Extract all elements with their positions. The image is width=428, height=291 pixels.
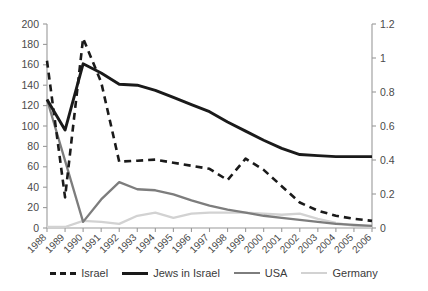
x-axis-tick-label: 1988	[25, 231, 49, 255]
left-axis-tick-label: 60	[27, 160, 39, 172]
series-line-israel	[47, 38, 372, 221]
chart-legend: IsraelJews in IsraelUSAGermany	[0, 262, 428, 284]
legend-label: Jews in Israel	[153, 267, 220, 279]
x-axis-tick-label: 2003	[296, 231, 320, 255]
right-axis-tick-label: 0.2	[380, 188, 395, 200]
x-axis-tick-label: 1994	[133, 231, 157, 255]
x-axis-tick-label: 1993	[115, 231, 139, 255]
x-axis-tick-label: 2004	[314, 231, 338, 255]
x-axis-tick-label: 1997	[187, 231, 211, 255]
left-axis-tick-label: 160	[21, 58, 39, 70]
left-axis-tick-label: 20	[27, 201, 39, 213]
legend-swatch-icon	[234, 272, 260, 274]
series-line-usa	[47, 99, 372, 225]
right-axis-tick-label: 1.2	[380, 18, 395, 30]
legend-label: Israel	[81, 267, 108, 279]
left-axis-tick-label: 140	[21, 79, 39, 91]
x-axis-tick-label: 1992	[97, 231, 121, 255]
legend-swatch-icon	[122, 272, 148, 275]
right-axis-tick-label: 0.6	[380, 120, 395, 132]
x-axis-tick-label: 2002	[278, 231, 302, 255]
left-axis-tick-label: 40	[27, 181, 39, 193]
right-axis-tick-label: 0.8	[380, 86, 395, 98]
legend-label: Germany	[332, 267, 377, 279]
x-axis-tick-label: 1989	[43, 231, 67, 255]
x-axis-tick-label: 1995	[151, 231, 175, 255]
series-line-germany	[47, 213, 372, 227]
right-axis-tick-label: 0	[380, 222, 386, 234]
x-axis-tick-label: 1996	[169, 231, 193, 255]
x-axis-tick-label: 2000	[242, 231, 266, 255]
x-axis-tick-label: 1998	[205, 231, 229, 255]
legend-label: USA	[265, 267, 288, 279]
legend-swatch-icon	[50, 272, 76, 275]
x-axis-tick-label: 1999	[224, 231, 248, 255]
x-axis-tick-label: 2001	[260, 231, 284, 255]
legend-item-germany[interactable]: Germany	[301, 267, 377, 279]
legend-item-usa[interactable]: USA	[234, 267, 288, 279]
x-axis-tick-label: 1990	[61, 231, 85, 255]
left-axis-tick-label: 200	[21, 18, 39, 30]
left-axis-tick-label: 120	[21, 99, 39, 111]
right-axis-tick-label: 0.4	[380, 154, 395, 166]
x-axis-tick-label: 2005	[332, 231, 356, 255]
legend-swatch-icon	[301, 272, 327, 274]
left-axis-tick-label: 180	[21, 38, 39, 50]
left-axis-tick-label: 0	[33, 222, 39, 234]
left-axis-tick-label: 100	[21, 120, 39, 132]
series-line-jews-in-israel	[47, 64, 372, 157]
chart-plot-area: 02040608010012014016018020000.20.40.60.8…	[0, 0, 428, 291]
legend-item-jews-in-israel[interactable]: Jews in Israel	[122, 267, 220, 279]
line-chart: 02040608010012014016018020000.20.40.60.8…	[0, 0, 428, 291]
x-axis-tick-label: 2006	[350, 231, 374, 255]
right-axis-tick-label: 1	[380, 52, 386, 64]
x-axis-tick-label: 1991	[79, 231, 103, 255]
left-axis-tick-label: 80	[27, 140, 39, 152]
legend-item-israel[interactable]: Israel	[50, 267, 108, 279]
